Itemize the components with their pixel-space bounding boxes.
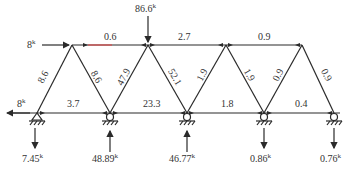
top-chord-label-2: 2.7 xyxy=(178,32,191,42)
reaction-label-2: 48.89k xyxy=(92,154,118,164)
reaction-label-5: 0.76k xyxy=(320,154,341,164)
load-value: 86.6 xyxy=(135,3,153,14)
member-arrowheads xyxy=(40,43,332,115)
load-unit: k xyxy=(32,38,36,46)
top-chord-label-1: 0.6 xyxy=(104,32,117,42)
bottom-chord-label-3: 1.8 xyxy=(221,99,234,109)
load-label-vertical: 86.6k xyxy=(135,4,156,14)
reaction-label-4: 0.86k xyxy=(250,154,271,164)
reaction-value: 0.86 xyxy=(250,153,268,164)
reaction-unit: k xyxy=(338,152,342,160)
reaction-label-3: 46.77k xyxy=(169,154,195,164)
reaction-unit: k xyxy=(40,152,44,160)
support-roller-3 xyxy=(179,114,195,126)
support-roller-5 xyxy=(326,114,342,126)
reaction-value: 7.45 xyxy=(22,153,40,164)
top-chord-label-3: 0.9 xyxy=(258,32,271,42)
bottom-chord-label-1: 3.7 xyxy=(67,99,80,109)
reaction-value: 0.76 xyxy=(320,153,338,164)
bottom-chord-label-4: 0.4 xyxy=(295,99,308,109)
truss-diagram: 86.6k 8k 8k 0.6 2.7 0.9 3.7 23.3 1.8 0.4… xyxy=(0,0,352,171)
load-unit: k xyxy=(153,2,157,10)
load-label-horizontal-top: 8k xyxy=(27,40,36,50)
support-pin-1 xyxy=(29,113,45,125)
reaction-unit: k xyxy=(268,152,272,160)
reaction-unit: k xyxy=(115,152,119,160)
reaction-value: 46.77 xyxy=(169,153,192,164)
bottom-chord-label-2: 23.3 xyxy=(143,99,161,109)
load-label-horizontal-bottom: 8k xyxy=(17,99,26,109)
reaction-unit: k xyxy=(192,152,196,160)
support-roller-4 xyxy=(256,114,272,126)
reaction-label-1: 7.45k xyxy=(22,154,43,164)
support-roller-2 xyxy=(102,114,118,126)
load-unit: k xyxy=(22,97,26,105)
reaction-value: 48.89 xyxy=(92,153,115,164)
